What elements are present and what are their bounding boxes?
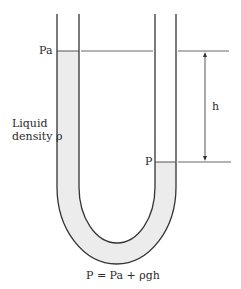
liquid-fill [57, 51, 176, 264]
height-label: h [212, 100, 219, 113]
height-arrow-head-top [203, 52, 207, 57]
p-label: P [145, 155, 152, 168]
density-label: density ρ [12, 130, 62, 143]
height-arrow-head-bottom [203, 156, 207, 161]
u-tube-manometer-diagram [0, 0, 241, 289]
liquid-label: Liquid [12, 117, 48, 130]
pressure-equation: P = Pa + ρgh [86, 269, 160, 282]
pa-label: Pa [39, 44, 52, 57]
